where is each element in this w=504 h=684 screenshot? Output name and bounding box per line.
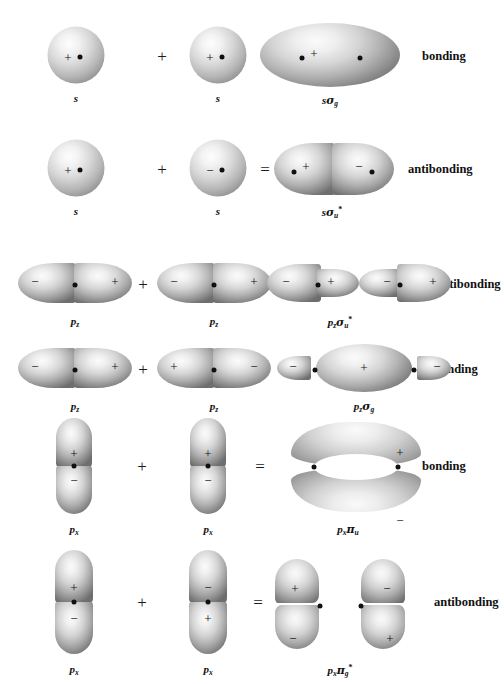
sign-positive: + (310, 47, 317, 60)
nucleus-dot (312, 465, 317, 470)
orbital-lobe-positive (397, 264, 451, 302)
label-subscript: g (370, 405, 374, 414)
orbital-label-result: pzσg (354, 400, 374, 414)
sign-positive: + (396, 446, 403, 459)
orbital-lobe-negative (18, 348, 76, 388)
nucleus-dot (358, 56, 363, 61)
nucleus-dot (206, 600, 211, 605)
row-s-sigma-u-star: + s + − s = + − sσu* antibonding (0, 118, 504, 233)
label-subscript: g (334, 99, 338, 108)
nucleus-dot (370, 170, 375, 175)
orbital-label-pz-b: pz (210, 400, 218, 414)
operator-plus: + (137, 594, 147, 611)
sign-negative: − (355, 160, 362, 173)
sign-negative: − (289, 632, 296, 645)
orbital-label-px-a: px (69, 663, 78, 677)
operator-equals: = (253, 594, 263, 611)
nucleus-dot (318, 604, 323, 609)
nucleus-dot (72, 464, 77, 469)
sign-positive: + (204, 612, 211, 625)
label-star: * (349, 663, 353, 672)
classification-label: antibonding (434, 595, 499, 610)
sign-positive: + (206, 51, 213, 64)
orbital-lobe-negative (157, 263, 215, 303)
orbital-label-s-b: s (216, 205, 220, 217)
label-star: * (348, 315, 352, 324)
nucleus-dot (72, 600, 77, 605)
nucleus-dot (412, 368, 417, 373)
orbital-node-void (314, 454, 398, 480)
orbital-label-result: sσu* (322, 205, 343, 220)
sign-negative: − (70, 474, 77, 487)
sign-positive: + (250, 275, 257, 288)
label-subscript: u (355, 528, 359, 537)
nucleus-dot (212, 368, 217, 373)
sign-negative: − (383, 275, 390, 288)
classification-label: bonding (422, 459, 466, 474)
label-subscript: x (209, 528, 213, 537)
sign-positive: + (64, 164, 71, 177)
row-px-pi-u: + − px + + − px = + − pxπu bonding (0, 420, 504, 540)
operator-equals: = (255, 458, 265, 475)
sign-negative: − (170, 275, 177, 288)
label-subscript: z (76, 405, 79, 414)
operator-plus: + (137, 458, 147, 475)
nucleus-dot (313, 368, 318, 373)
nucleus-dot (212, 283, 217, 288)
row-pz-sigma-g: − + pz + + − pz = − + − pzσg bonding (0, 340, 504, 425)
operator-plus: + (138, 361, 148, 378)
nucleus-dot (398, 283, 403, 288)
nucleus-dot (292, 170, 297, 175)
sign-negative: − (383, 582, 390, 595)
label-subscript: x (75, 528, 79, 537)
sign-positive: + (386, 632, 393, 645)
sign-negative: − (250, 360, 257, 373)
row-px-pi-g-star: + − px + − + px = + − − + pxπg* antibond… (0, 548, 504, 684)
nucleus-dot (206, 464, 211, 469)
classification-label: antibonding (408, 162, 473, 177)
orbital-label-px-a: px (69, 523, 78, 537)
orbital-lobe-positive (317, 269, 359, 297)
orbital-lobe-positive (74, 348, 132, 388)
nucleus-dot (359, 604, 364, 609)
orbital-lobe-positive (213, 263, 271, 303)
nucleus-dot (220, 168, 225, 173)
sign-positive: + (429, 275, 436, 288)
operator-plus: + (157, 161, 167, 178)
label-subscript: x (209, 668, 213, 677)
orbital-label-result: pxπg* (327, 663, 352, 678)
label-subscript: x (75, 668, 79, 677)
sign-negative: − (31, 275, 38, 288)
sign-negative: − (206, 164, 213, 177)
orbital-label-px-b: px (203, 663, 212, 677)
orbital-lobe-negative (332, 143, 394, 195)
sign-negative: − (204, 474, 211, 487)
sign-positive: + (291, 582, 298, 595)
nucleus-dot (78, 55, 83, 60)
orbital-sigma-g-result (260, 23, 400, 87)
operator-plus: + (138, 276, 148, 293)
nucleus-dot (396, 465, 401, 470)
orbital-lobe-negative (213, 348, 271, 388)
orbital-s-b (190, 27, 247, 84)
orbital-label-s-b: s (216, 92, 220, 104)
orbital-label-result: sσg (322, 94, 338, 108)
orbital-lobe-positive (74, 263, 132, 303)
sign-negative: − (204, 581, 211, 594)
label-star: * (338, 205, 342, 214)
nucleus-dot (316, 283, 321, 288)
classification-label: bonding (422, 49, 466, 64)
sign-positive: + (327, 275, 334, 288)
sign-positive: + (70, 581, 77, 594)
orbital-s-b (190, 140, 247, 197)
label-subscript: z (215, 405, 218, 414)
orbital-lobe-positive (157, 348, 215, 388)
nucleus-dot (220, 55, 225, 60)
sign-positive: + (70, 447, 77, 460)
sign-positive: + (64, 51, 71, 64)
nucleus-dot (78, 168, 83, 173)
orbital-label-s-a: s (74, 92, 78, 104)
orbital-label-pz-b: pz (210, 315, 218, 329)
label-greek: σ (336, 316, 344, 329)
row-pz-sigma-u-star: − + pz + − + pz = − + − + pzσu* antibond… (0, 255, 504, 340)
